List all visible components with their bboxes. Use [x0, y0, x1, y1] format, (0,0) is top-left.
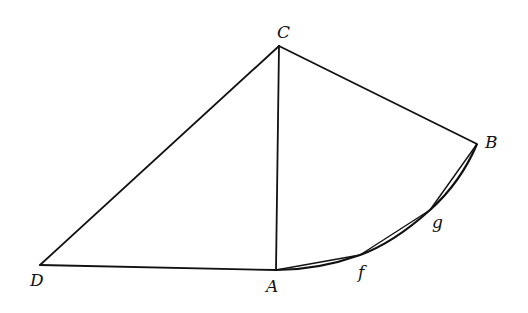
segment-cb: [279, 46, 477, 144]
segment-ca: [276, 46, 279, 270]
chord-af: [276, 255, 360, 270]
label-g: g: [432, 212, 443, 232]
segment-da: [40, 265, 276, 270]
geometry-diagram: C B D A f g: [0, 0, 528, 313]
label-d: D: [29, 270, 44, 290]
arc-ab: [276, 144, 477, 270]
label-a: A: [264, 276, 278, 296]
label-c: C: [277, 22, 290, 42]
chord-fg: [360, 210, 430, 255]
label-b: B: [484, 132, 498, 152]
label-f: f: [356, 262, 367, 282]
chord-gb: [430, 144, 477, 210]
segment-cd: [40, 46, 279, 265]
